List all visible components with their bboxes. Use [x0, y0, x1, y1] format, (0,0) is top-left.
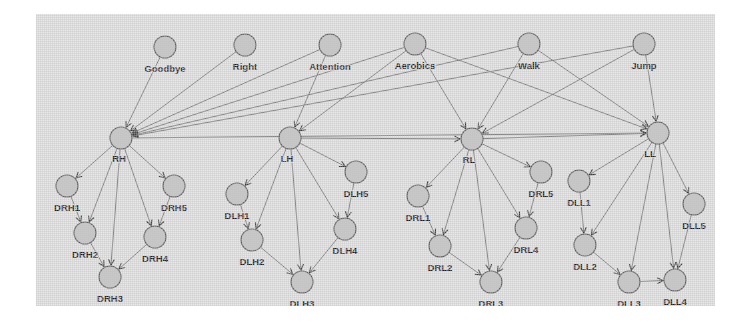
graph-edge	[640, 281, 663, 282]
graph-node-attention[interactable]: Attention	[309, 34, 351, 72]
node-circle[interactable]	[163, 175, 185, 197]
graph-edge	[291, 149, 301, 270]
node-label: DRL5	[529, 188, 555, 199]
graph-edge	[111, 149, 120, 265]
node-circle[interactable]	[568, 170, 590, 192]
node-label: DRL3	[479, 298, 504, 306]
node-circle[interactable]	[574, 234, 596, 256]
node-circle[interactable]	[429, 235, 451, 257]
node-label: DRL1	[406, 212, 432, 223]
graph-node-dlh1[interactable]: DLH1	[225, 183, 251, 221]
graph-node-rl[interactable]: RL	[461, 128, 483, 165]
graph-node-right[interactable]: Right	[233, 34, 258, 72]
node-circle[interactable]	[291, 271, 313, 293]
graph-edge	[129, 145, 165, 178]
graph-node-drh3[interactable]: DRH3	[97, 266, 123, 304]
node-label: DRH3	[97, 293, 123, 304]
node-circle[interactable]	[530, 161, 552, 183]
graph-canvas: GoodbyeRightAttentionAerobicsWalkJumpRHL…	[36, 14, 715, 306]
graph-edge	[483, 49, 635, 133]
node-circle[interactable]	[404, 33, 426, 55]
node-circle[interactable]	[461, 128, 483, 150]
graph-node-dlh5[interactable]: DLH5	[344, 161, 370, 199]
node-label: Goodbye	[144, 63, 185, 74]
graph-node-lh[interactable]: LH	[279, 127, 301, 164]
graph-panel: GoodbyeRightAttentionAerobicsWalkJumpRHL…	[36, 14, 715, 306]
node-label: LH	[281, 153, 294, 164]
figure-root: GoodbyeRightAttentionAerobicsWalkJumpRHL…	[0, 0, 741, 327]
graph-node-dll5[interactable]: DLL5	[682, 193, 706, 231]
node-circle[interactable]	[56, 175, 78, 197]
graph-node-drh1[interactable]: DRH1	[54, 175, 81, 213]
edge-arrowhead-icon	[475, 270, 481, 275]
node-circle[interactable]	[618, 271, 640, 293]
graph-node-drl3[interactable]: DRL3	[479, 271, 504, 306]
edge-arrowhead-icon	[589, 170, 595, 175]
graph-node-rh[interactable]: RH	[110, 127, 132, 164]
edge-arrowhead-icon	[515, 212, 520, 218]
node-circle[interactable]	[518, 33, 540, 55]
node-circle[interactable]	[515, 217, 537, 239]
graph-node-drl2[interactable]: DRL2	[428, 235, 453, 273]
graph-edge	[301, 138, 460, 139]
graph-node-dll3[interactable]: DLL3	[617, 271, 641, 306]
graph-node-dll1[interactable]: DLL1	[567, 170, 591, 208]
node-circle[interactable]	[144, 226, 166, 248]
node-label: DLH2	[240, 256, 265, 267]
graph-node-dll4[interactable]: DLL4	[663, 269, 687, 306]
node-circle[interactable]	[241, 229, 263, 251]
graph-edge	[426, 147, 464, 187]
node-label: RL	[463, 154, 476, 165]
node-circle[interactable]	[683, 193, 705, 215]
graph-node-walk[interactable]: Walk	[518, 33, 541, 71]
graph-node-drl4[interactable]: DRL4	[514, 217, 540, 255]
node-label: DLL4	[663, 296, 687, 306]
node-label: DRL4	[514, 244, 540, 255]
graph-node-drh5[interactable]: DRH5	[161, 175, 188, 213]
graph-node-drl5[interactable]: DRL5	[529, 161, 555, 199]
node-circle[interactable]	[234, 34, 256, 56]
node-circle[interactable]	[74, 222, 96, 244]
edge-arrowhead-icon	[498, 266, 503, 272]
graph-node-goodbye[interactable]: Goodbye	[144, 36, 185, 74]
graph-edge	[245, 146, 282, 185]
graph-edge	[593, 252, 619, 274]
node-label: DLH1	[225, 210, 251, 221]
graph-node-dll2[interactable]: DLL2	[573, 234, 597, 272]
graph-edge	[125, 148, 152, 225]
graph-edge	[663, 143, 689, 193]
node-label: RH	[112, 153, 126, 164]
node-label: DLL3	[617, 298, 641, 306]
node-circle[interactable]	[319, 34, 341, 56]
graph-edge	[132, 47, 404, 134]
graph-node-jump[interactable]: Jump	[631, 33, 657, 71]
node-circle[interactable]	[345, 161, 367, 183]
node-label: DRL2	[428, 262, 453, 273]
graph-node-aerobics[interactable]: Aerobics	[395, 33, 436, 71]
node-label: DLL2	[573, 261, 597, 272]
node-circle[interactable]	[334, 218, 356, 240]
node-circle[interactable]	[407, 185, 429, 207]
graph-node-drh2[interactable]: DRH2	[72, 222, 98, 260]
graph-edge	[300, 143, 346, 166]
graph-node-ll[interactable]: LL	[644, 122, 669, 159]
node-circle[interactable]	[647, 122, 669, 144]
node-circle[interactable]	[279, 127, 301, 149]
graph-node-dlh4[interactable]: DLH4	[333, 218, 359, 256]
node-circle[interactable]	[664, 269, 686, 291]
node-circle[interactable]	[226, 183, 248, 205]
graph-node-dlh3[interactable]: DLH3	[290, 271, 315, 306]
node-circle[interactable]	[480, 271, 502, 293]
node-label: DRH2	[72, 249, 98, 260]
graph-edge	[133, 46, 633, 136]
graph-node-drl1[interactable]: DRL1	[406, 185, 432, 223]
graph-edge	[260, 247, 292, 274]
node-label: DLH4	[333, 245, 359, 256]
node-label: LL	[644, 148, 656, 159]
node-circle[interactable]	[154, 36, 176, 58]
node-label: DLH5	[344, 188, 370, 199]
node-circle[interactable]	[633, 33, 655, 55]
graph-edge	[631, 144, 656, 270]
node-circle[interactable]	[110, 127, 132, 149]
node-circle[interactable]	[99, 266, 121, 288]
